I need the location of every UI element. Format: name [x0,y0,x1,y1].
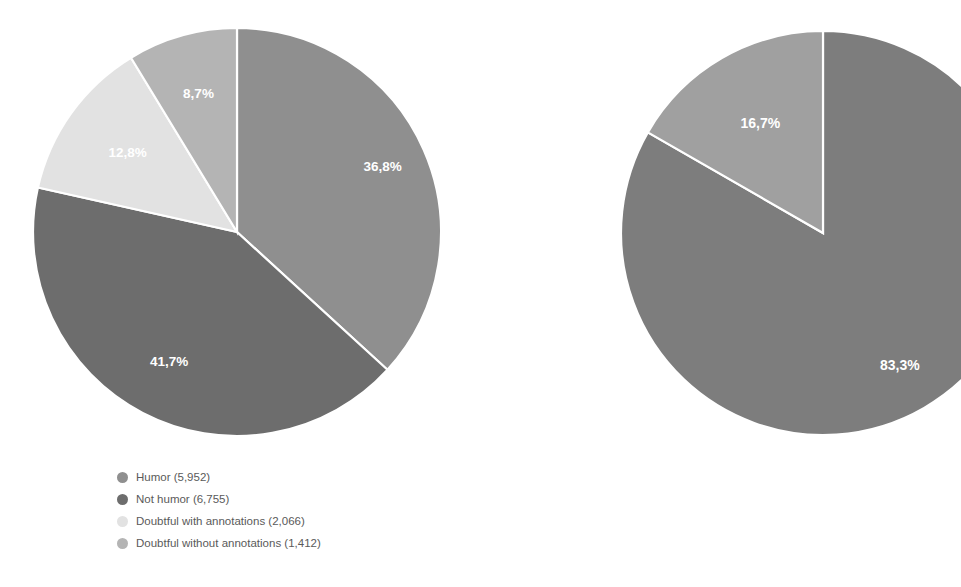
pie-slice-percent-label: 8,7% [183,86,214,101]
legend-item-label: Doubtful with annotations (2,066) [136,515,305,527]
pie-slice-percent-label: 83,3% [880,357,920,373]
left-chart-legend: Humor (5,952)Not humor (6,755)Doubtful w… [117,466,321,554]
legend-item[interactable]: Doubtful with annotations (2,066) [117,510,321,532]
legend-item[interactable]: Humor (5,952) [117,466,321,488]
right-chart-panel: 83,3%16,7% Not humor (29,630)Humor (5,95… [480,0,961,587]
legend-item-label: Not humor (6,755) [136,493,229,505]
legend-item[interactable]: Not humor (6,755) [117,488,321,510]
legend-color-swatch [117,494,128,505]
legend-item-label: Doubtful without annotations (1,412) [136,537,321,549]
legend-color-swatch [117,516,128,527]
legend-item[interactable]: Doubtful without annotations (1,412) [117,532,321,554]
annotation-breakdown-pie-svg: 36,8%41,7%12,8%8,7% [32,27,442,437]
humor-vs-not-humor-pie: 83,3%16,7% [620,30,961,436]
pie-slice-percent-label: 12,8% [108,145,146,160]
pie-slice-percent-label: 41,7% [150,354,188,369]
pie-chart-figure: 36,8%41,7%12,8%8,7% Humor (5,952)Not hum… [0,0,961,587]
annotation-breakdown-pie: 36,8%41,7%12,8%8,7% [32,27,442,437]
left-chart-panel: 36,8%41,7%12,8%8,7% Humor (5,952)Not hum… [0,0,480,587]
pie-slice-percent-label: 16,7% [740,115,780,131]
legend-item-label: Humor (5,952) [136,471,210,483]
pie-slice-percent-label: 36,8% [363,159,401,174]
legend-color-swatch [117,472,128,483]
humor-vs-not-humor-pie-svg: 83,3%16,7% [620,30,961,436]
legend-color-swatch [117,538,128,549]
